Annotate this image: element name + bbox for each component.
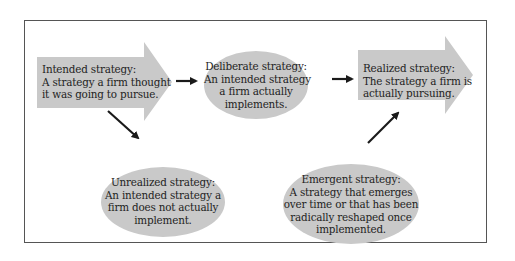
node-desc-line: a firm actually: [204, 85, 308, 98]
emergent-strategy-label: Emergent strategy: A strategy that emerg…: [283, 173, 419, 236]
node-desc-line: implemented.: [283, 223, 419, 236]
node-desc-line: it was going to pursue.: [42, 88, 171, 101]
intended-strategy-label: Intended strategy: A strategy a firm tho…: [42, 63, 171, 101]
node-title: Deliberate strategy:: [204, 60, 308, 73]
node-desc-line: actually pursuing.: [363, 87, 472, 100]
node-desc-line: radically reshaped once: [283, 211, 419, 224]
node-title: Realized strategy:: [363, 62, 472, 75]
unrealized-strategy-label: Unrealized strategy: An intended strateg…: [101, 176, 225, 226]
node-desc-line: An intended strategy a: [101, 189, 225, 202]
arrow-emergent-to-realized: [368, 113, 398, 143]
node-desc-line: An intended strategy: [204, 73, 308, 86]
node-desc-line: The strategy a firm is: [363, 75, 472, 88]
diagram-canvas: [0, 0, 515, 261]
node-desc-line: A strategy a firm thought: [42, 76, 171, 89]
node-desc-line: implements.: [204, 98, 308, 111]
node-title: Unrealized strategy:: [101, 176, 225, 189]
node-desc-line: A strategy that emerges: [283, 186, 419, 199]
node-desc-line: over time or that has been: [283, 198, 419, 211]
node-desc-line: firm does not actually: [101, 201, 225, 214]
deliberate-strategy-label: Deliberate strategy: An intended strateg…: [204, 60, 308, 110]
realized-strategy-label: Realized strategy: The strategy a firm i…: [363, 62, 472, 100]
arrow-intended-to-unrealized: [108, 111, 138, 138]
node-title: Emergent strategy:: [283, 173, 419, 186]
node-desc-line: implement.: [101, 214, 225, 227]
node-title: Intended strategy:: [42, 63, 171, 76]
